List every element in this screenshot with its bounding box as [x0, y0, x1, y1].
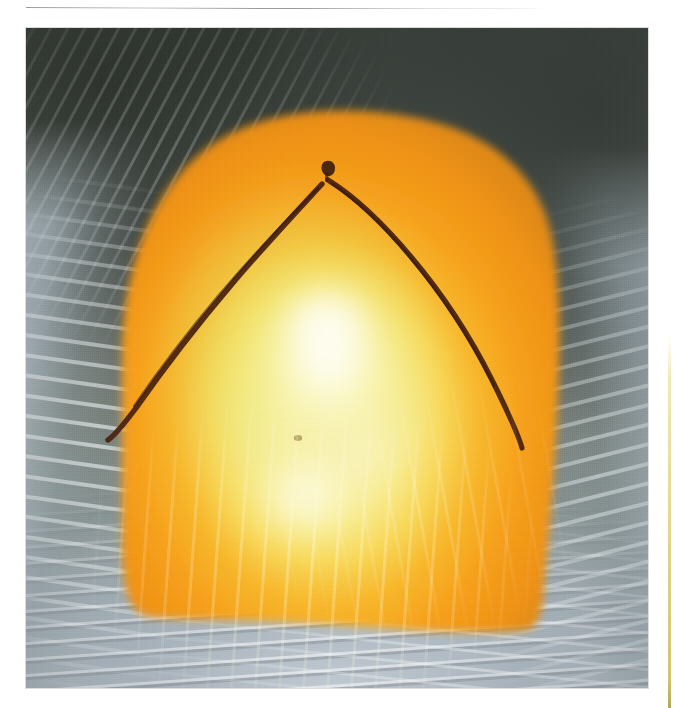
- adjacent-figure-edge: [668, 336, 671, 708]
- horizontal-rule-line: [26, 7, 674, 9]
- horizontal-rule: [26, 6, 674, 9]
- skin-sheen-streaks-alt: [26, 28, 648, 688]
- figure-page: [0, 0, 674, 708]
- clinical-photograph: [26, 28, 648, 688]
